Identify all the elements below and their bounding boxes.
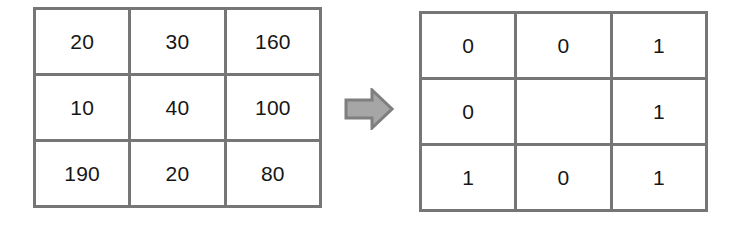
result-cell-r1c0: 0	[422, 80, 514, 143]
source-cell-r2c2: 80	[227, 142, 319, 205]
result-cell-r2c0: 1	[422, 146, 514, 209]
result-cell-r0c1: 0	[517, 14, 609, 77]
source-cell-r1c0: 10	[36, 76, 128, 139]
output-binary-values-grid: 0 0 1 0 1 1 0 1	[419, 11, 708, 212]
source-cell-r0c1: 30	[131, 10, 223, 73]
result-cell-r0c2: 1	[613, 14, 705, 77]
source-cell-r0c0: 20	[36, 10, 128, 73]
result-cell-r0c0: 0	[422, 14, 514, 77]
source-cell-r2c0: 190	[36, 142, 128, 205]
source-cell-r2c1: 20	[131, 142, 223, 205]
source-cell-r1c2: 100	[227, 76, 319, 139]
input-pixel-values-grid: 20 30 160 10 40 100 190 20 80	[33, 7, 322, 208]
arrow-right-block-icon	[344, 88, 394, 130]
source-cell-r1c1: 40	[131, 76, 223, 139]
result-cell-r1c2: 1	[613, 80, 705, 143]
threshold-figure: 20 30 160 10 40 100 190 20 80 0 0 1 0 1 …	[0, 0, 739, 226]
result-cell-r2c2: 1	[613, 146, 705, 209]
result-cell-r1c1	[517, 80, 609, 143]
source-cell-r0c2: 160	[227, 10, 319, 73]
result-cell-r2c1: 0	[517, 146, 609, 209]
